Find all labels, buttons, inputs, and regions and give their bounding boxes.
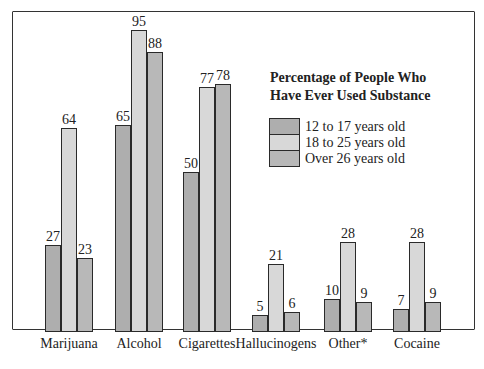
- bar-other-0: [324, 299, 340, 332]
- legend-title-line2: Have Ever Used Substance: [270, 88, 430, 104]
- legend-label-12-17: 12 to 17 years old: [305, 119, 405, 135]
- bar-other-2: [356, 302, 372, 332]
- bar-marijuana-0: [45, 245, 61, 332]
- bar-value-label: 21: [261, 249, 291, 263]
- bar-marijuana-1: [61, 128, 77, 332]
- bar-hallucinogens-2: [284, 312, 300, 332]
- bar-value-label: 28: [402, 227, 432, 241]
- bar-cocaine-2: [425, 302, 441, 332]
- category-label: Cocaine: [372, 336, 462, 352]
- bar-cigarettes-1: [199, 87, 215, 332]
- bar-hallucinogens-0: [252, 315, 268, 332]
- bar-value-label: 88: [140, 37, 170, 51]
- bar-cigarettes-2: [215, 84, 231, 332]
- legend-swatch-12-17: [269, 118, 300, 135]
- bar-alcohol-0: [115, 125, 131, 332]
- bar-value-label: 6: [277, 297, 307, 311]
- bar-marijuana-2: [77, 258, 93, 332]
- bar-value-label: 78: [208, 69, 238, 83]
- bar-value-label: 23: [70, 243, 100, 257]
- legend-label-18-25: 18 to 25 years old: [305, 135, 405, 151]
- bar-value-label: 95: [124, 15, 154, 29]
- legend-swatch-over-26: [269, 150, 300, 167]
- bar-value-label: 9: [418, 287, 448, 301]
- legend-swatch-18-25: [269, 134, 300, 151]
- legend-label-over-26: Over 26 years old: [305, 151, 405, 167]
- legend-title-line1: Percentage of People Who: [270, 70, 426, 86]
- bar-cocaine-0: [393, 309, 409, 332]
- bar-alcohol-1: [131, 30, 147, 332]
- bar-value-label: 9: [349, 287, 379, 301]
- bar-alcohol-2: [147, 52, 163, 332]
- bar-cigarettes-0: [183, 172, 199, 332]
- bar-value-label: 64: [54, 113, 84, 127]
- bar-value-label: 28: [333, 227, 363, 241]
